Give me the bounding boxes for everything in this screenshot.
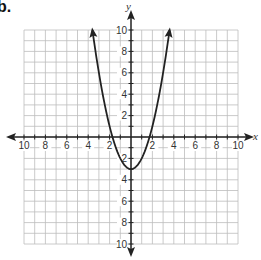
y-tick-label: 4: [121, 89, 127, 100]
y-tick-label: 10: [116, 25, 128, 36]
y-tick-label: 10: [116, 239, 128, 250]
x-tick-label: 4: [85, 140, 91, 151]
x-tick-label: 8: [214, 140, 220, 151]
y-axis-label: y: [125, 0, 131, 12]
y-tick-label: 6: [121, 67, 127, 78]
y-tick-label: 2: [121, 110, 127, 121]
x-tick-label: 10: [232, 140, 244, 151]
x-tick-label: 8: [43, 140, 49, 151]
x-tick-label: 6: [64, 140, 70, 151]
x-tick-label: 4: [171, 140, 177, 151]
y-tick-label: 4: [121, 174, 127, 185]
x-axis-label: x: [252, 130, 258, 142]
x-tick-label: 6: [192, 140, 198, 151]
x-tick-label: 10: [18, 140, 30, 151]
y-tick-label: 8: [121, 217, 127, 228]
y-tick-label: 8: [121, 46, 127, 57]
y-tick-label: 6: [121, 196, 127, 207]
x-tick-label: 2: [107, 140, 113, 151]
coordinate-plane-chart: 108642246810108642246810 x y: [0, 0, 261, 260]
x-tick-label: 2: [150, 140, 156, 151]
